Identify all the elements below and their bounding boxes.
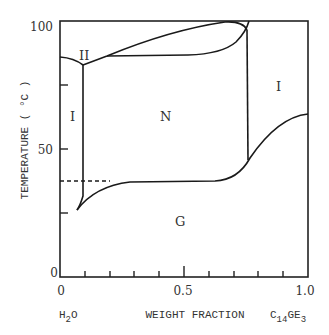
x-tick-0.5: 0.5: [173, 284, 192, 298]
x-ticks: [85, 266, 283, 277]
x-left-component-label: H2O: [59, 309, 78, 325]
region-label-i-right: I: [276, 79, 281, 94]
x-right-component-label: C14GE3: [270, 309, 306, 325]
region-label-ii: II: [79, 48, 89, 63]
y-tick-100: 100: [30, 20, 53, 34]
boundary-n-inner: [107, 21, 249, 56]
boundary-n-i-right: [247, 30, 248, 160]
boundary-ii-n-upper: [83, 22, 247, 65]
region-label-i-left: I: [70, 109, 75, 124]
boundary-g: [77, 114, 308, 210]
region-label-n: N: [160, 109, 171, 124]
y-tick-0: 0: [50, 266, 58, 280]
x-tick-1.0: 1.0: [295, 284, 314, 298]
y-tick-50: 50: [38, 143, 53, 157]
x-tick-0: 0: [57, 284, 65, 298]
y-ticks: [60, 85, 68, 213]
y-axis-label: TEMPERATURE ( °C ): [19, 81, 31, 200]
x-axis-label: WEIGHT FRACTION: [145, 309, 244, 321]
region-label-g: G: [175, 214, 185, 229]
boundary-i-vertical: [77, 65, 83, 210]
phase-diagram: II I N I G 100 50 0 0 0.5 1.0 TEMPERATUR…: [0, 0, 329, 335]
